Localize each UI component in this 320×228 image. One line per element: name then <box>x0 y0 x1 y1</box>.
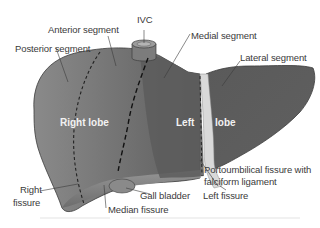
right-fissure-label-line2: fissure <box>13 197 40 208</box>
anterior-segment-label: Anterior segment <box>48 24 119 35</box>
lateral-segment-label: Lateral segment <box>240 52 307 63</box>
liver-diagram: Right lobe Left lobe IVC Anterior segmen… <box>0 0 320 228</box>
median-fissure-label: Median fissure <box>108 204 168 215</box>
left-lobe-label-part1: Left <box>176 117 194 128</box>
posterior-segment-label: Posterior segment <box>15 43 90 54</box>
left-lobe-label-part2: lobe <box>215 117 236 128</box>
left-fissure-label: Left fissure <box>203 190 248 201</box>
right-fissure-label-line1: Right <box>20 184 42 195</box>
gallbladder-shape <box>109 179 135 193</box>
medial-segment-label: Medial segment <box>191 30 257 41</box>
portoumbilical-label-line1: Portoumbilical fissure with <box>204 164 311 175</box>
ivc-label: IVC <box>137 14 153 25</box>
right-lobe-label: Right lobe <box>60 117 109 128</box>
portoumbilical-label-line2: falciform ligament <box>204 176 277 187</box>
gall-bladder-label: Gall bladder <box>140 190 190 201</box>
ivc-vessel <box>132 40 156 61</box>
